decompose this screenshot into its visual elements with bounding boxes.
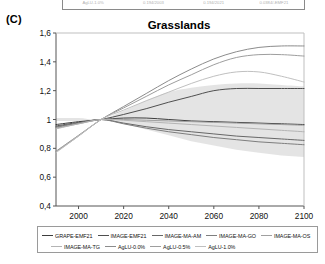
- y-tick-label: 1,6: [39, 28, 51, 38]
- legend-item[interactable]: IMAGE-EMF21: [98, 233, 147, 239]
- x-tick-label: 2080: [250, 211, 269, 221]
- legend-label: IMAGE-MA-AM: [165, 233, 202, 239]
- legend-item[interactable]: AgLU-0.5%: [150, 244, 190, 250]
- y-tick-label: 0,8: [39, 143, 51, 153]
- legend-label: AgLU-1.0%: [208, 244, 235, 250]
- legend-item[interactable]: IMAGE-MA-OS: [261, 233, 310, 239]
- legend-item[interactable]: IMAGE-MA-TG: [51, 244, 100, 250]
- y-tick-label: 1,4: [39, 57, 51, 67]
- legend-label: IMAGE-MA-OS: [274, 233, 310, 239]
- chart-legend: GRAPE-EMF21IMAGE-EMF21IMAGE-MA-AMIMAGE-M…: [37, 226, 318, 253]
- legend-item[interactable]: AgLU-1.0%: [195, 244, 235, 250]
- x-tick-label: 2100: [295, 211, 314, 221]
- legend-line-swatch: [51, 246, 62, 247]
- y-tick-label: 1,2: [39, 86, 51, 96]
- legend-item[interactable]: IMAGE-MA-AM: [152, 233, 202, 239]
- legend-label: AgLU-0.0%: [118, 244, 145, 250]
- x-tick-label: 2000: [69, 211, 88, 221]
- legend-item[interactable]: IMAGE-MA-GO: [206, 233, 256, 239]
- x-tick-label: 2060: [205, 211, 224, 221]
- legend-line-swatch: [105, 246, 116, 247]
- legend-line-swatch: [261, 235, 272, 236]
- x-tick-label: 2020: [114, 211, 133, 221]
- chart-plot-area: 0,40,60,811,21,41,6200020202040206020802…: [0, 0, 325, 264]
- legend-line-swatch: [150, 246, 161, 247]
- y-tick-label: 1: [46, 115, 51, 125]
- legend-row-2: IMAGE-MA-TGAgLU-0.0%AgLU-0.5%AgLU-1.0%: [42, 241, 315, 252]
- legend-line-swatch: [195, 246, 206, 247]
- legend-label: IMAGE-MA-GO: [219, 233, 256, 239]
- legend-label: IMAGE-EMF21: [111, 233, 147, 239]
- y-tick-label: 0,4: [39, 201, 51, 211]
- legend-item[interactable]: GRAPE-EMF21: [42, 233, 93, 239]
- legend-label: AgLU-0.5%: [163, 244, 190, 250]
- y-tick-label: 0,6: [39, 172, 51, 182]
- figure-panel-c: AgLU-1.0%0.194/20030.194/20210.0384/-EMF…: [0, 0, 325, 264]
- line-chart-svg: 0,40,60,811,21,41,6200020202040206020802…: [0, 0, 325, 264]
- legend-line-swatch: [98, 235, 109, 236]
- legend-line-swatch: [152, 235, 163, 236]
- legend-item[interactable]: AgLU-0.0%: [105, 244, 145, 250]
- legend-label: IMAGE-MA-TG: [64, 244, 100, 250]
- legend-label: GRAPE-EMF21: [55, 233, 93, 239]
- x-tick-label: 2040: [159, 211, 178, 221]
- legend-row-1: GRAPE-EMF21IMAGE-EMF21IMAGE-MA-AMIMAGE-M…: [42, 230, 315, 241]
- legend-line-swatch: [42, 235, 53, 236]
- legend-line-swatch: [206, 235, 217, 236]
